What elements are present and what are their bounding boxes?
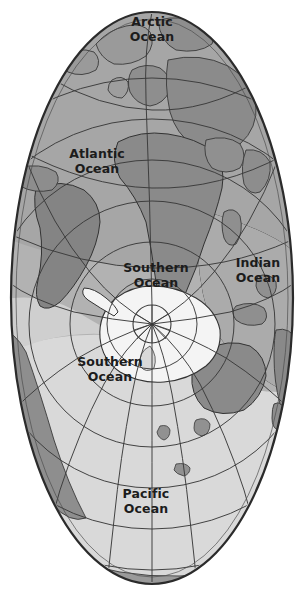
label-indian-ocean-line2: Ocean xyxy=(236,270,280,285)
label-pacific-ocean-line2: Ocean xyxy=(124,501,168,516)
label-indian-ocean-line1: Indian xyxy=(236,255,281,270)
label-arctic-ocean: Arctic Ocean xyxy=(130,14,174,44)
label-atlantic-ocean: Atlantic Ocean xyxy=(69,146,125,176)
label-southern-ocean-west-line1: Southern xyxy=(77,354,143,369)
label-southern-ocean-west-line2: Ocean xyxy=(88,369,132,384)
label-indian-ocean: Indian Ocean xyxy=(236,255,281,285)
label-atlantic-ocean-line1: Atlantic xyxy=(69,146,125,161)
label-pacific-ocean: Pacific Ocean xyxy=(123,486,170,516)
label-arctic-ocean-line2: Ocean xyxy=(130,29,174,44)
land-arabia xyxy=(205,138,244,172)
label-southern-ocean-north-line2: Ocean xyxy=(134,275,178,290)
label-pacific-ocean-line1: Pacific xyxy=(123,486,170,501)
label-southern-ocean-north-line1: Southern xyxy=(123,260,189,275)
land-madagascar xyxy=(222,210,241,245)
map-container: Arctic Ocean Atlantic Ocean Indian Ocean… xyxy=(0,0,305,602)
world-map-svg: Arctic Ocean Atlantic Ocean Indian Ocean… xyxy=(0,0,305,602)
label-atlantic-ocean-line2: Ocean xyxy=(75,161,119,176)
label-arctic-ocean-line1: Arctic xyxy=(131,14,173,29)
